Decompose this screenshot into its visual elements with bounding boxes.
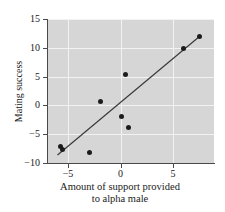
- y-axis-tick-label: −10: [16, 158, 40, 168]
- x-axis-tick-label: 5: [161, 169, 185, 179]
- data-point: [126, 125, 131, 130]
- x-axis-tick-label: 0: [109, 169, 133, 179]
- gridline-horizontal: [47, 48, 214, 49]
- regression-line: [47, 19, 214, 163]
- gridline-vertical: [121, 19, 122, 163]
- y-axis-title: Mating success: [13, 32, 24, 152]
- y-axis-tick: [43, 77, 47, 78]
- gridline-vertical: [68, 19, 69, 163]
- plot-area: [47, 19, 214, 163]
- data-point: [197, 34, 202, 39]
- y-axis-tick: [43, 48, 47, 49]
- y-axis-line: [47, 19, 48, 164]
- data-point: [119, 114, 124, 119]
- y-axis-tick: [43, 19, 47, 20]
- gridline-horizontal: [47, 105, 214, 106]
- gridline-horizontal: [47, 19, 214, 20]
- x-axis-title-line1: Amount of support provided: [60, 181, 180, 192]
- data-point: [98, 99, 103, 104]
- gridline-vertical: [173, 19, 174, 163]
- x-axis-title-line2: to alpha male: [30, 193, 210, 205]
- x-axis-tick-label: −5: [56, 169, 80, 179]
- y-axis-tick: [43, 163, 47, 164]
- data-point: [181, 46, 186, 51]
- y-axis-tick: [43, 134, 47, 135]
- gridline-horizontal: [47, 134, 214, 135]
- x-axis-title: Amount of support provided to alpha male: [30, 181, 210, 205]
- x-axis-line: [47, 163, 215, 164]
- gridline-horizontal: [47, 77, 214, 78]
- data-point: [87, 150, 92, 155]
- scatter-plot-figure: −10−5051015 −505 Mating success Amount o…: [0, 0, 225, 212]
- y-axis-tick-label: 15: [16, 14, 40, 24]
- y-axis-tick: [43, 105, 47, 106]
- data-point: [60, 147, 65, 152]
